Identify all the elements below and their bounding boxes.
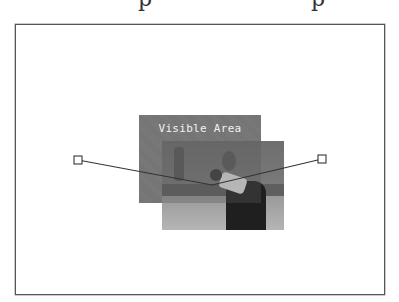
left-handle-icon[interactable]	[74, 156, 82, 164]
bezier-guide-lines	[0, 0, 399, 302]
right-handle-icon[interactable]	[318, 155, 326, 163]
guide-line	[78, 159, 322, 185]
